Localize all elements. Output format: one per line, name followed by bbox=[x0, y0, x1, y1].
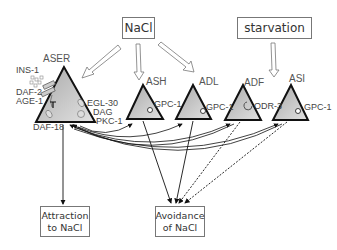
ins1-label: INS-1 bbox=[16, 65, 39, 75]
adf-label: ADF bbox=[244, 77, 264, 88]
avoidance-line1: Avoidance bbox=[156, 210, 205, 222]
starvation-label: starvation bbox=[244, 21, 305, 36]
adl-gpc1-icon bbox=[201, 109, 206, 114]
pkc1-label: PKC-1 bbox=[96, 116, 123, 126]
nacl-stimulus-box: NaCl bbox=[122, 17, 155, 39]
age1-label: AGE-1 bbox=[16, 96, 43, 106]
attraction-output-box: Attraction to NaCl bbox=[40, 206, 90, 237]
nacl-to-ash-arrow bbox=[134, 44, 144, 80]
adl-to-avoidance-arrow bbox=[176, 121, 193, 203]
avoidance-line2: of NaCl bbox=[163, 222, 197, 234]
starvation-stimulus-box: starvation bbox=[237, 17, 312, 39]
dag-icon bbox=[78, 111, 85, 118]
asi-to-avoidance-arrow bbox=[185, 122, 287, 203]
ash-label: ASH bbox=[146, 76, 167, 87]
asi-gpc1-icon bbox=[296, 109, 301, 114]
attraction-line2: to NaCl bbox=[48, 222, 83, 234]
starvation-to-asi-arrow bbox=[269, 43, 279, 77]
diagram-canvas: NaCl starvation ASER ASH ADL ADF ASI INS… bbox=[0, 0, 337, 250]
aser-to-asi-arrow bbox=[74, 124, 278, 147]
adl-gpc1-label: GPC-1 bbox=[206, 102, 234, 112]
nacl-to-adl-arrow bbox=[158, 42, 194, 72]
adl-label: ADL bbox=[199, 76, 218, 87]
daf18-label: DAF-18 bbox=[33, 122, 64, 132]
ash-gpc1-label: GPC-1 bbox=[154, 99, 182, 109]
ash-gpc1-icon bbox=[148, 108, 153, 113]
attraction-line1: Attraction bbox=[42, 210, 89, 222]
aser-to-adf-arrow bbox=[76, 124, 230, 142]
aser-label: ASER bbox=[43, 53, 70, 64]
nacl-label: NaCl bbox=[124, 21, 152, 36]
avoidance-output-box: Avoidance of NaCl bbox=[155, 206, 205, 237]
asi-gpc1-label: GPC-1 bbox=[304, 102, 332, 112]
adf-odr3-label: ODR-3 bbox=[254, 101, 282, 111]
ins1-peptides-icon bbox=[30, 76, 43, 87]
asi-label: ASI bbox=[289, 73, 305, 84]
nacl-to-aser-arrow bbox=[82, 45, 121, 78]
